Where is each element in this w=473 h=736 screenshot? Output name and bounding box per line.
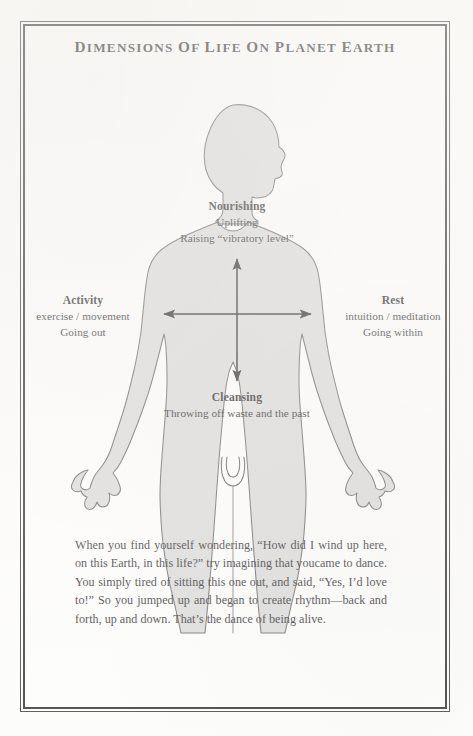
label-nourishing-line-2: Raising “vibratory level” [137, 231, 337, 247]
label-cleansing: Cleansing Throwing off waste and the pas… [127, 391, 347, 422]
label-nourishing-line-1: Uplifting [137, 215, 337, 231]
label-rest-line-2: Going within [318, 325, 468, 341]
label-cleansing-line-1: Throwing off waste and the past [127, 406, 347, 422]
label-rest-line-1: intuition / meditation [318, 309, 468, 325]
label-nourishing-heading: Nourishing [137, 200, 337, 213]
groin-inner-right [233, 457, 240, 477]
label-activity-heading: Activity [8, 294, 158, 307]
body-paragraph: When you find yourself wondering, “How d… [75, 536, 387, 628]
label-activity-line-2: Going out [8, 325, 158, 341]
label-cleansing-heading: Cleansing [127, 391, 347, 404]
label-nourishing: Nourishing Uplifting Raising “vibratory … [137, 200, 337, 246]
label-rest-heading: Rest [318, 294, 468, 307]
label-activity-line-1: exercise / movement [8, 309, 158, 325]
label-rest: Rest intuition / meditation Going within [318, 294, 468, 340]
groin-inner-left [226, 457, 233, 477]
label-activity: Activity exercise / movement Going out [8, 294, 158, 340]
groin-marking [221, 457, 244, 486]
page-canvas: DIMENSIONS OF LIFE ON PLANET EARTH [0, 0, 473, 736]
